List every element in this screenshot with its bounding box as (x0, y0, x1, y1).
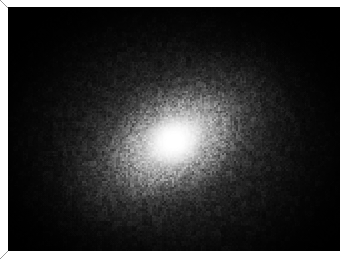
vignette-layer (8, 7, 340, 251)
image-plate (0, 0, 346, 261)
astronomical-image (8, 7, 340, 251)
